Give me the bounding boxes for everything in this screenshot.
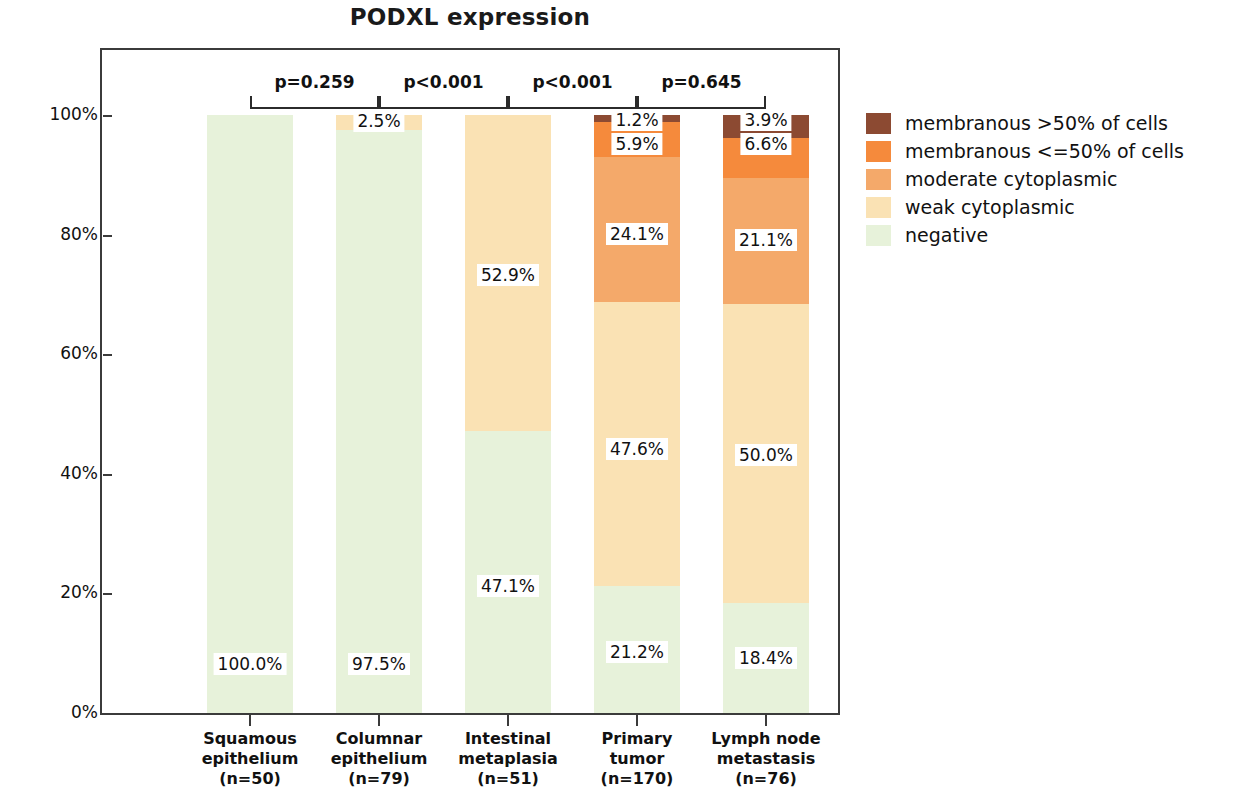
x-axis-tick-mark: [636, 715, 638, 726]
y-axis-tick: 60%: [0, 354, 112, 355]
bar-segment-value-label: 18.4%: [735, 647, 797, 669]
chart-title: PODXL expression: [100, 4, 840, 30]
x-axis-category-line: Lymph node: [696, 729, 836, 749]
bar-segment-value-label: 5.9%: [611, 133, 662, 155]
legend-color-swatch: [866, 225, 891, 246]
x-axis-category-line: tumor: [567, 749, 707, 769]
legend-item-label: weak cytoplasmic: [905, 196, 1075, 218]
legend-item-label: moderate cytoplasmic: [905, 168, 1117, 190]
y-axis-tick: 20%: [0, 593, 112, 594]
bar-segment[interactable]: [336, 130, 422, 713]
bar-segment-value-label: 21.1%: [735, 229, 797, 251]
x-axis-tick-mark: [765, 715, 767, 726]
x-axis-tick-mark: [249, 715, 251, 726]
x-axis-category-line: metastasis: [696, 749, 836, 769]
x-axis-tick-mark: [507, 715, 509, 726]
bar-segment-value-label: 6.6%: [740, 133, 791, 155]
legend-color-swatch: [866, 141, 891, 162]
bar-segment-value-label: 3.9%: [740, 109, 791, 131]
bar-segment-value-label: 24.1%: [606, 223, 668, 245]
pvalue-label: p=0.645: [597, 72, 806, 92]
y-axis-tick-label: 60%: [60, 343, 98, 363]
y-axis-tick: 40%: [0, 474, 112, 475]
x-axis-category-line: epithelium: [309, 749, 449, 769]
x-axis-category-line: Squamous: [180, 729, 320, 749]
y-axis-tick-label: 20%: [60, 582, 98, 602]
x-axis-category-line: Primary: [567, 729, 707, 749]
legend-item-label: membranous <=50% of cells: [905, 140, 1184, 162]
bar-segment-value-label: 2.5%: [353, 110, 404, 132]
x-axis-category-label: Squamousepithelium(n=50): [180, 729, 320, 789]
legend-item[interactable]: moderate cytoplasmic: [866, 166, 1238, 192]
bar-segment-value-label: 100.0%: [214, 653, 287, 675]
plot-area: 100.0%97.5%2.5%47.1%52.9%21.2%47.6%24.1%…: [102, 50, 838, 713]
bar-column[interactable]: [336, 115, 422, 713]
y-axis-tick: 100%: [0, 115, 112, 116]
legend-item[interactable]: weak cytoplasmic: [866, 194, 1238, 220]
chart-figure: PODXL expression Percent 0%20%40%60%80%1…: [0, 0, 1238, 798]
bar-segment-value-label: 50.0%: [735, 444, 797, 466]
legend-color-swatch: [866, 169, 891, 190]
y-axis-tick-label: 0%: [71, 702, 98, 722]
x-axis-category-label: Columnarepithelium(n=79): [309, 729, 449, 789]
x-axis-category-line: Columnar: [309, 729, 449, 749]
legend-color-swatch: [866, 197, 891, 218]
legend-item-label: membranous >50% of cells: [905, 112, 1168, 134]
legend-item-label: negative: [905, 224, 988, 246]
bar-column[interactable]: [465, 115, 551, 713]
legend-item[interactable]: membranous >50% of cells: [866, 110, 1238, 136]
legend-item[interactable]: membranous <=50% of cells: [866, 138, 1238, 164]
x-axis-category-line: Intestinal: [438, 729, 578, 749]
x-axis-category-line: (n=51): [438, 769, 578, 789]
x-axis-category-line: metaplasia: [438, 749, 578, 769]
bar-segment-value-label: 97.5%: [348, 653, 410, 675]
y-axis-tick: 0%: [0, 713, 112, 714]
x-axis-category-line: (n=170): [567, 769, 707, 789]
legend-color-swatch: [866, 113, 891, 134]
x-axis-category-line: (n=50): [180, 769, 320, 789]
x-axis-tick-mark: [378, 715, 380, 726]
x-axis-category-line: epithelium: [180, 749, 320, 769]
y-axis-tick-mark: [103, 713, 112, 715]
bar-column[interactable]: [723, 115, 809, 713]
bar-segment-value-label: 47.1%: [477, 575, 539, 597]
chart-legend: membranous >50% of cellsmembranous <=50%…: [866, 110, 1238, 250]
y-axis-tick: 80%: [0, 235, 112, 236]
x-axis-category-line: (n=76): [696, 769, 836, 789]
bar-column[interactable]: [207, 115, 293, 713]
x-axis-category-line: (n=79): [309, 769, 449, 789]
pvalue-bracket: [379, 96, 508, 109]
pvalue-bracket: [250, 96, 379, 109]
bar-segment-value-label: 1.2%: [611, 109, 662, 131]
x-axis-category-label: Primarytumor(n=170): [567, 729, 707, 789]
pvalue-bracket: [637, 96, 766, 109]
bar-column[interactable]: [594, 115, 680, 713]
x-axis-category-label: Intestinalmetaplasia(n=51): [438, 729, 578, 789]
pvalue-bracket: [508, 96, 637, 109]
legend-item[interactable]: negative: [866, 222, 1238, 248]
y-axis-tick-label: 40%: [60, 463, 98, 483]
bar-segment-value-label: 47.6%: [606, 438, 668, 460]
y-axis-tick-label: 80%: [60, 224, 98, 244]
y-axis-tick-label: 100%: [49, 104, 98, 124]
bar-segment-value-label: 21.2%: [606, 641, 668, 663]
x-axis-category-label: Lymph nodemetastasis(n=76): [696, 729, 836, 789]
bar-segment[interactable]: [465, 431, 551, 713]
bar-segment[interactable]: [207, 115, 293, 713]
y-axis-title: Percent: [0, 250, 3, 410]
bar-segment-value-label: 52.9%: [477, 264, 539, 286]
